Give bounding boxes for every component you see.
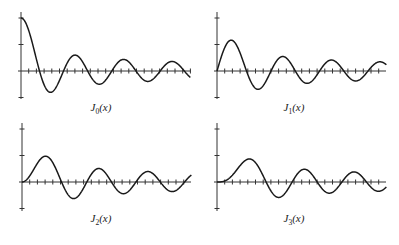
plot-j3: [214, 123, 386, 211]
label-j0: J0(x): [91, 101, 112, 116]
label-j2: J2(x): [91, 212, 112, 227]
curve-j0: [21, 18, 190, 92]
plot-j0: [18, 12, 191, 99]
curve-j1: [217, 40, 386, 89]
label-j3: J3(x): [284, 212, 305, 227]
curve-j3: [217, 159, 386, 197]
curve-j2: [22, 156, 191, 198]
plot-j1: [214, 12, 386, 99]
label-j1: J1(x): [284, 101, 305, 116]
bessel-figure: [0, 0, 399, 245]
plot-j2: [19, 123, 191, 211]
